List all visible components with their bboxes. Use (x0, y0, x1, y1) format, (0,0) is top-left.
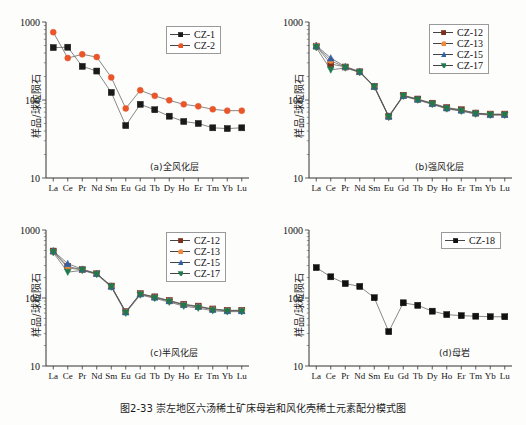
figure-ree-patterns: 样品/球粒陨石 100010010LaCePrNdSmEuGdTbDyHoErT… (0, 0, 526, 425)
chart-svg-a: 100010010LaCePrNdSmEuGdTbDyHoErTmYbLu (0, 0, 263, 212)
svg-text:Dy: Dy (164, 371, 175, 381)
legend-item: CZ-15 (433, 49, 483, 60)
svg-text:Dy: Dy (427, 371, 438, 381)
svg-text:Pr: Pr (341, 183, 349, 193)
legend-swatch (170, 273, 190, 274)
svg-text:Tb: Tb (150, 371, 160, 381)
legend-item: CZ-17 (433, 60, 483, 71)
svg-text:Nd: Nd (354, 183, 365, 193)
svg-text:Eu: Eu (384, 371, 394, 381)
legend-item: CZ-12 (170, 235, 220, 246)
svg-text:Tm: Tm (470, 371, 483, 381)
svg-text:10: 10 (30, 361, 40, 372)
svg-text:Pr: Pr (341, 371, 349, 381)
legend-swatch (170, 34, 190, 35)
svg-text:Tb: Tb (413, 183, 423, 193)
legend-swatch (170, 262, 190, 263)
svg-text:10: 10 (293, 361, 303, 372)
svg-text:Tm: Tm (207, 371, 220, 381)
svg-text:Ce: Ce (326, 371, 336, 381)
svg-text:La: La (49, 371, 59, 381)
svg-text:Ho: Ho (178, 371, 189, 381)
svg-text:Yb: Yb (222, 371, 233, 381)
legend-item: CZ-2 (170, 40, 215, 51)
legend-label: CZ-1 (194, 29, 215, 40)
svg-text:Yb: Yb (222, 183, 233, 193)
legend-item: CZ-12 (433, 27, 483, 38)
svg-text:Er: Er (194, 183, 203, 193)
svg-text:Eu: Eu (121, 183, 131, 193)
legend-item: CZ-18 (445, 235, 495, 246)
svg-text:Sm: Sm (105, 371, 117, 381)
svg-text:Lu: Lu (500, 371, 510, 381)
svg-text:1000: 1000 (283, 17, 303, 28)
svg-text:Ce: Ce (63, 371, 73, 381)
legend-item: CZ-15 (170, 257, 220, 268)
svg-text:Sm: Sm (105, 183, 117, 193)
svg-text:Tb: Tb (150, 183, 160, 193)
svg-text:Er: Er (194, 371, 203, 381)
svg-text:Pr: Pr (78, 371, 86, 381)
svg-text:1000: 1000 (283, 225, 303, 236)
svg-text:Nd: Nd (354, 371, 365, 381)
legend-item: CZ-13 (433, 38, 483, 49)
svg-text:Er: Er (457, 371, 466, 381)
svg-text:10: 10 (30, 173, 40, 184)
svg-text:Ce: Ce (326, 183, 336, 193)
legend-item: CZ-1 (170, 29, 215, 40)
legend-label: CZ-15 (457, 49, 483, 60)
panel-tag-a: (a)全风化层 (150, 160, 199, 173)
svg-text:Gd: Gd (398, 371, 409, 381)
legend-swatch (433, 65, 453, 66)
svg-text:Dy: Dy (427, 183, 438, 193)
svg-text:Lu: Lu (237, 183, 247, 193)
svg-text:Eu: Eu (121, 371, 131, 381)
svg-text:100: 100 (288, 95, 303, 106)
legend-label: CZ-2 (194, 40, 215, 51)
svg-text:La: La (49, 183, 59, 193)
svg-text:Er: Er (457, 183, 466, 193)
svg-text:100: 100 (25, 293, 40, 304)
svg-text:Ho: Ho (178, 183, 189, 193)
svg-text:Gd: Gd (135, 371, 146, 381)
svg-text:Ce: Ce (63, 183, 73, 193)
legend-swatch (445, 240, 465, 241)
legend-label: CZ-13 (194, 246, 220, 257)
panel-tag-c: (c)半风化层 (150, 346, 198, 359)
svg-text:Eu: Eu (384, 183, 394, 193)
legend-b: CZ-12CZ-13CZ-15CZ-17 (429, 24, 489, 74)
legend-label: CZ-17 (194, 268, 220, 279)
legend-swatch (433, 54, 453, 55)
panel-tag-d: (d)母岩 (439, 346, 470, 359)
svg-text:Lu: Lu (237, 371, 247, 381)
svg-text:Sm: Sm (368, 371, 380, 381)
svg-text:1000: 1000 (20, 225, 40, 236)
legend-d: CZ-18 (441, 232, 501, 249)
legend-c: CZ-12CZ-13CZ-15CZ-17 (166, 232, 226, 282)
svg-text:Yb: Yb (485, 183, 496, 193)
legend-swatch (170, 45, 190, 46)
legend-swatch (170, 240, 190, 241)
panel-tag-b: (b)强风化层 (415, 160, 464, 173)
svg-text:Nd: Nd (91, 183, 102, 193)
svg-text:La: La (312, 371, 322, 381)
svg-text:Pr: Pr (78, 183, 86, 193)
legend-label: CZ-17 (457, 60, 483, 71)
figure-caption: 图2-33 崇左地区六汤稀土矿床母岩和风化壳稀土元素配分模式图 (0, 400, 526, 415)
svg-text:La: La (312, 183, 322, 193)
legend-swatch (170, 251, 190, 252)
panel-b-strong-weathered: 样品/球粒陨石 100010010LaCePrNdSmEuGdTbDyHoErT… (263, 0, 526, 212)
legend-item: CZ-17 (170, 268, 220, 279)
panel-c-semi-weathered: 样品/球粒陨石 100010010LaCePrNdSmEuGdTbDyHoErT… (0, 212, 263, 398)
svg-text:100: 100 (25, 95, 40, 106)
svg-text:100: 100 (288, 293, 303, 304)
legend-label: CZ-13 (457, 38, 483, 49)
svg-text:Nd: Nd (91, 371, 102, 381)
legend-a: CZ-1CZ-2 (166, 26, 221, 54)
panel-grid: 样品/球粒陨石 100010010LaCePrNdSmEuGdTbDyHoErT… (0, 0, 526, 398)
legend-item: CZ-13 (170, 246, 220, 257)
svg-text:Dy: Dy (164, 183, 175, 193)
svg-text:1000: 1000 (20, 17, 40, 28)
legend-label: CZ-18 (469, 235, 495, 246)
svg-text:Lu: Lu (500, 183, 510, 193)
